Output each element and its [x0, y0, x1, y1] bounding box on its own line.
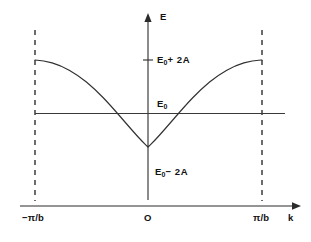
e0-plus-2a-suffix: + 2A — [167, 54, 190, 65]
y-axis-arrowhead — [144, 13, 151, 22]
x-tick-label-pi-over-b: π/b — [253, 213, 269, 223]
e0-minus-2a-suffix: − 2A — [165, 166, 188, 177]
energy-band-figure: E E0+ 2A E0 E0− 2A −π/b O π/b k — [0, 0, 311, 242]
y-tick-label-e0-plus-2a: E0+ 2A — [157, 55, 190, 66]
y-level-label-e0: E0 — [157, 99, 167, 110]
x-tick-label-origin: O — [144, 213, 152, 223]
x-axis-label: k — [288, 213, 293, 223]
e0-subscript: 0 — [164, 103, 168, 110]
x-tick-label-neg-pi-over-b: −π/b — [22, 213, 44, 223]
y-axis-label: E — [160, 12, 167, 22]
plot-canvas — [0, 0, 311, 242]
x-axis-arrowhead — [292, 202, 301, 210]
y-level-label-e0-minus-2a: E0− 2A — [155, 167, 188, 178]
